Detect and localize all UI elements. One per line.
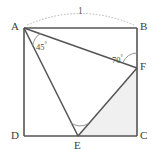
geometry-canvas	[0, 0, 162, 161]
geometry-figure: A B C D E F 45° 70° 1	[0, 0, 162, 161]
vertex-label-c: C	[140, 130, 147, 141]
vertex-label-f: F	[140, 61, 146, 72]
degree-symbol-f: °	[121, 54, 123, 60]
angle-label-f: 70°	[112, 54, 123, 64]
vertex-label-a: A	[11, 21, 19, 32]
angle-arc-f	[123, 53, 137, 63]
length-label-ab: 1	[78, 7, 83, 17]
angle-label-a-value: 45	[36, 42, 45, 52]
vertex-label-d: D	[11, 130, 19, 141]
degree-symbol-a: °	[45, 41, 47, 47]
vertex-label-e: E	[74, 140, 81, 151]
angle-label-f-value: 70	[112, 55, 121, 65]
angle-label-a: 45°	[36, 41, 47, 51]
vertex-label-b: B	[140, 21, 147, 32]
